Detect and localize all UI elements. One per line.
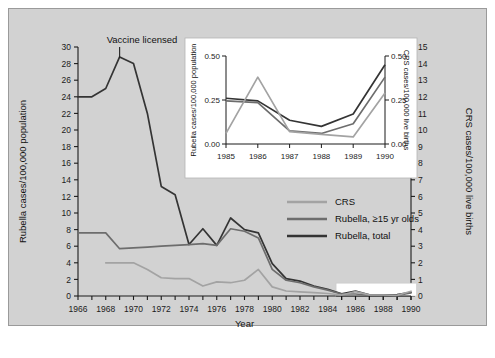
chart-canvas: 024681012141618202224262830Rubella cases…	[0, 0, 495, 358]
y-tick-label-left: 24	[62, 92, 72, 102]
y-tick-label-left: 14	[62, 175, 72, 185]
y-tick-label-right: 8	[418, 158, 423, 168]
inset-x-tick-label: 1985	[217, 152, 235, 161]
y-tick-label-right: 12	[418, 92, 428, 102]
x-tick-label: 1966	[69, 304, 88, 314]
figure-container: 024681012141618202224262830Rubella cases…	[0, 0, 495, 358]
x-tick-label: 1970	[124, 304, 143, 314]
x-tick-label: 1986	[346, 304, 365, 314]
y-tick-label-right: 0	[418, 291, 423, 301]
x-tick-label: 1990	[402, 304, 421, 314]
x-tick-label: 1972	[152, 304, 171, 314]
y-tick-label-left: 28	[62, 59, 72, 69]
y-tick-label-right: 4	[418, 225, 423, 235]
y-tick-label-left: 26	[62, 75, 72, 85]
x-tick-label: 1988	[374, 304, 393, 314]
y-tick-label-right: 15	[418, 42, 428, 52]
inset-y-axis-label-right: CRS cases/100,000 live births	[402, 50, 411, 151]
y-tick-label-left: 22	[62, 109, 72, 119]
inset-x-tick-label: 1987	[281, 152, 299, 161]
y-tick-label-left: 6	[66, 241, 71, 251]
inset-x-tick-label: 1988	[313, 152, 331, 161]
y-tick-label-left: 10	[62, 208, 72, 218]
y-tick-label-right: 1	[418, 275, 423, 285]
y-tick-label-right: 9	[418, 142, 423, 152]
x-tick-label: 1980	[263, 304, 282, 314]
y-axis-label-right: CRS cases/100,000 live births	[464, 108, 475, 236]
inset-y-tick-label-left: 0.25	[204, 96, 220, 105]
inset-y-tick-label-left: 0.50	[204, 52, 220, 61]
inset-x-tick-label: 1989	[344, 152, 362, 161]
y-tick-label-left: 18	[62, 142, 72, 152]
x-tick-label: 1984	[318, 304, 337, 314]
x-tick-label: 1976	[207, 304, 226, 314]
y-axis-label-left: Rubella cases/100,000 population	[17, 100, 28, 243]
legend-label-1: Rubella, ≥15 yr olds	[335, 213, 419, 224]
x-tick-label: 1968	[96, 304, 115, 314]
x-axis-label: Year	[235, 318, 254, 329]
y-tick-label-right: 14	[418, 59, 428, 69]
y-tick-label-right: 13	[418, 75, 428, 85]
y-tick-label-left: 20	[62, 125, 72, 135]
y-tick-label-left: 16	[62, 158, 72, 168]
legend-label-0: CRS	[335, 196, 355, 207]
y-tick-label-right: 10	[418, 125, 428, 135]
inset-x-tick-label: 1990	[376, 152, 394, 161]
y-tick-label-left: 12	[62, 192, 72, 202]
y-tick-label-left: 8	[66, 225, 71, 235]
legend-label-2: Rubella, total	[335, 230, 390, 241]
y-tick-label-right: 7	[418, 175, 423, 185]
y-tick-label-left: 4	[66, 258, 71, 268]
x-tick-label: 1982	[291, 304, 310, 314]
y-tick-label-right: 2	[418, 258, 423, 268]
y-tick-label-left: 30	[62, 42, 72, 52]
inset-x-tick-label: 1986	[249, 152, 267, 161]
y-tick-label-left: 2	[66, 275, 71, 285]
x-tick-label: 1978	[235, 304, 254, 314]
vaccine-licensed-annotation: Vaccine licensed	[107, 34, 178, 45]
x-tick-label: 1974	[180, 304, 199, 314]
y-tick-label-right: 3	[418, 241, 423, 251]
y-tick-label-right: 6	[418, 192, 423, 202]
inset-y-axis-label-left: Rubella cases/100,000 population	[189, 43, 198, 156]
y-tick-label-left: 0	[66, 291, 71, 301]
inset-y-tick-label-left: 0.00	[204, 140, 220, 149]
y-tick-label-right: 11	[418, 109, 427, 119]
